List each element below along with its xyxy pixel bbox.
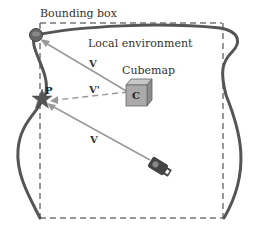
diagram-canvas <box>0 0 264 232</box>
arrowhead-v-upper <box>40 39 50 47</box>
bounding-box-label: Bounding box <box>40 8 117 19</box>
vector-v-lower-label: V <box>90 135 98 145</box>
reflection-diagram: Bounding box Local environment Cubemap C… <box>0 0 264 232</box>
cubemap-center-label: C <box>132 91 140 101</box>
local-environment-outline <box>18 25 241 218</box>
cubemap-label: Cubemap <box>122 65 175 76</box>
point-p-label: P <box>45 86 53 96</box>
vector-v-lower <box>52 106 150 160</box>
camera-icon <box>147 156 173 178</box>
vector-v-upper-label: V <box>89 59 97 69</box>
local-environment-label: Local environment <box>88 38 192 49</box>
vector-v-prime-label: V' <box>89 85 100 95</box>
intersection-sphere-icon <box>30 29 43 42</box>
bounding-box <box>40 23 223 218</box>
arrowhead-v-prime <box>50 96 58 104</box>
